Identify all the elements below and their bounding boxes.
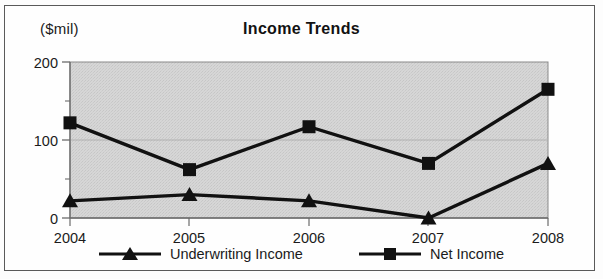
data-point-square[interactable]: [64, 116, 77, 129]
y-tick-label-200: 200: [34, 55, 58, 71]
y-tick-label-100: 100: [34, 133, 58, 149]
legend-swatch-square-icon: [359, 246, 421, 262]
x-tick-label-2008: 2008: [532, 230, 564, 246]
chart-legend: Underwriting Income Net Income: [0, 246, 603, 262]
x-tick-label-2007: 2007: [412, 230, 444, 246]
data-point-square[interactable]: [303, 120, 316, 133]
legend-entry-underwriting-income[interactable]: Underwriting Income: [99, 246, 303, 262]
chart-plot-area: 200 100 0 2004 2005 2006 2007 2008: [0, 0, 603, 279]
legend-swatch-triangle-icon: [99, 246, 161, 262]
data-point-square[interactable]: [183, 163, 196, 176]
legend-entry-net-income[interactable]: Net Income: [359, 246, 504, 262]
legend-label-net-income: Net Income: [430, 246, 504, 262]
x-tick-label-2005: 2005: [173, 230, 205, 246]
legend-label-underwriting-income: Underwriting Income: [170, 246, 303, 262]
income-trends-figure: ($mil) Income Trends: [0, 0, 603, 279]
x-tick-label-2004: 2004: [54, 230, 86, 246]
y-tick-label-0: 0: [50, 211, 58, 227]
data-point-square[interactable]: [422, 157, 435, 170]
x-tick-label-2006: 2006: [293, 230, 325, 246]
data-point-square[interactable]: [542, 83, 555, 96]
